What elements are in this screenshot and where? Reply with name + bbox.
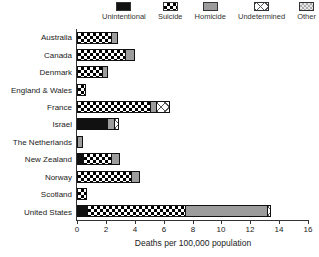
bar-segment-suicide [87, 206, 185, 216]
bar-segment-homicide [185, 206, 267, 216]
bar-row [77, 133, 308, 150]
bar-segment-suicide [83, 154, 111, 164]
country-label: The Netherlands [13, 138, 72, 147]
bar-segment-homicide [125, 50, 134, 60]
x-tick [308, 220, 309, 224]
bar-segment-suicide [78, 50, 125, 60]
country-label: Scotland [41, 190, 72, 199]
x-tick [250, 220, 251, 224]
legend-label: Undetermined [238, 13, 285, 21]
bar-segment-homicide [107, 119, 114, 129]
stacked-bar-canada [77, 49, 135, 61]
firearm-deaths-chart: UnintentionalSuicideHomicideUndetermined… [0, 0, 319, 257]
stacked-bar-israel [77, 118, 119, 130]
bars-container [77, 29, 308, 220]
bar-row [77, 203, 308, 220]
bar-segment-homicide [102, 67, 107, 77]
stacked-bar-norway [77, 171, 140, 183]
legend-label: Unintentional [102, 13, 146, 21]
y-label-row: United States [0, 204, 76, 221]
y-label-row: Norway [0, 169, 76, 186]
bar-segment-suicide [78, 67, 102, 77]
x-tick [106, 220, 107, 224]
stacked-bar-the-netherlands [77, 136, 83, 148]
bar-segment-homicide [111, 33, 117, 43]
x-tick-label: 16 [304, 225, 313, 234]
country-label: Israel [52, 120, 72, 129]
x-tick [193, 220, 194, 224]
x-tick-label: 10 [217, 225, 226, 234]
x-tick [135, 220, 136, 224]
country-label: Norway [45, 173, 72, 182]
y-label-row: Israel [0, 116, 76, 133]
x-tick-label: 6 [162, 225, 166, 234]
legend-label: Other [297, 13, 316, 21]
bar-segment-undetermined [156, 102, 169, 112]
stacked-bar-new-zealand [77, 153, 120, 165]
bar-segment-suicide [78, 33, 111, 43]
y-label-row: Australia [0, 29, 76, 46]
country-label: Australia [41, 33, 72, 42]
x-tick-label: 2 [104, 225, 108, 234]
country-label: New Zealand [25, 155, 72, 164]
bar-row [77, 168, 308, 185]
bar-segment-unintentional [78, 206, 87, 216]
bar-row [77, 64, 308, 81]
y-axis-labels: AustraliaCanadaDenmarkEngland & WalesFra… [0, 29, 76, 221]
y-label-row: Denmark [0, 64, 76, 81]
x-tick-label: 4 [133, 225, 137, 234]
bar-row [77, 29, 308, 46]
bar-segment-homicide [131, 172, 139, 182]
country-label: United States [24, 208, 72, 217]
legend-item-homicide: Homicide [195, 2, 226, 21]
x-tick [77, 220, 78, 224]
x-tick [279, 220, 280, 224]
bar-segment-homicide [78, 137, 82, 147]
bar-row [77, 185, 308, 202]
stacked-bar-england-wales [77, 84, 86, 96]
country-label: France [47, 103, 72, 112]
stacked-bar-denmark [77, 66, 108, 78]
bar-row [77, 81, 308, 98]
bar-segment-suicide [78, 189, 86, 199]
stacked-bar-scotland [77, 188, 87, 200]
y-label-row: The Netherlands [0, 134, 76, 151]
legend-item-other: Other [297, 2, 316, 21]
bar-segment-homicide [111, 154, 119, 164]
legend-swatch-homicide [203, 2, 218, 11]
stacked-bar-france [77, 101, 170, 113]
bar-row [77, 116, 308, 133]
x-tick [221, 220, 222, 224]
y-label-row: New Zealand [0, 151, 76, 168]
bar-segment-undetermined [267, 206, 270, 216]
bar-segment-suicide [78, 172, 131, 182]
legend-item-undetermined: Undetermined [238, 2, 285, 21]
bar-segment-undetermined [114, 119, 118, 129]
legend-swatch-other [299, 2, 314, 11]
x-tick-label: 0 [75, 225, 79, 234]
legend-swatch-unintentional [116, 2, 131, 11]
y-label-row: Scotland [0, 186, 76, 203]
y-label-row: France [0, 99, 76, 116]
x-tick [164, 220, 165, 224]
plot-area: 0246810121416 [76, 29, 308, 221]
stacked-bar-united-states [77, 205, 271, 217]
legend-item-unintentional: Unintentional [102, 2, 146, 21]
bar-segment-unintentional [78, 119, 107, 129]
legend-swatch-suicide [163, 2, 178, 11]
legend-swatch-undetermined [254, 2, 269, 11]
bar-row [77, 98, 308, 115]
y-label-row: England & Wales [0, 81, 76, 98]
country-label: Canada [44, 51, 72, 60]
bar-segment-suicide [78, 102, 150, 112]
y-label-row: Canada [0, 46, 76, 63]
legend-label: Homicide [195, 13, 226, 21]
x-tick-label: 12 [246, 225, 255, 234]
legend-label: Suicide [158, 13, 183, 21]
country-label: England & Wales [11, 86, 72, 95]
x-tick-label: 14 [275, 225, 284, 234]
plot-area-wrapper: AustraliaCanadaDenmarkEngland & WalesFra… [0, 29, 308, 221]
bar-row [77, 46, 308, 63]
stacked-bar-australia [77, 32, 118, 44]
x-axis-title: Deaths per 100,000 population [77, 238, 309, 248]
